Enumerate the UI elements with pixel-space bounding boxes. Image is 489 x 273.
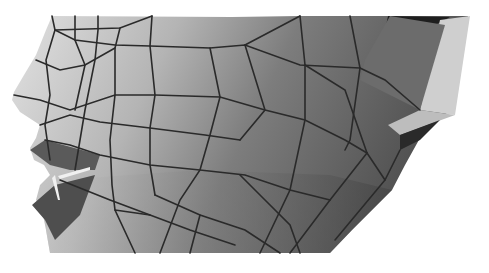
face-mesh	[0, 0, 489, 273]
jaw-surface	[46, 170, 392, 253]
mesh-render: Grayscale 3D polygon wireframe render of…	[0, 0, 489, 273]
